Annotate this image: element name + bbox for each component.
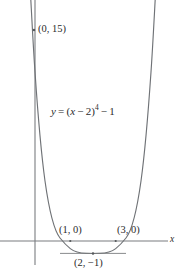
point-label-vertex: (2, −1) (74, 258, 103, 269)
equation-label: y = (x − 2)4 − 1 (51, 104, 115, 117)
quartic-curve (31, 0, 156, 253)
plot-canvas (0, 0, 186, 279)
point-label-root-left: (1, 0) (59, 225, 82, 236)
equation-one: 1 (109, 105, 115, 117)
point-marker-root-right (115, 240, 117, 242)
point-label-y-intercept: (0, 15) (38, 24, 66, 35)
point-marker-y-intercept (33, 29, 36, 32)
x-axis-label: x (170, 235, 174, 245)
point-label-root-right: (3, 0) (117, 225, 140, 236)
quartic-graph-figure: (0, 15) y = (x − 2)4 − 1 (1, 0) (3, 0) (… (0, 0, 186, 279)
point-marker-vertex (92, 252, 95, 255)
point-marker-root-left (69, 240, 71, 242)
